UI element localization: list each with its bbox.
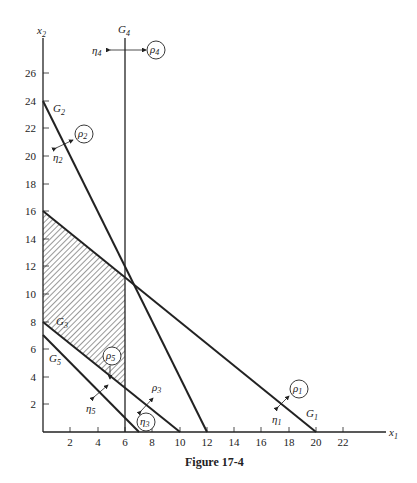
y-axis-label: x2	[36, 24, 46, 39]
svg-text:4: 4	[31, 371, 37, 383]
label-g2: G2	[53, 102, 65, 117]
svg-text:22: 22	[338, 436, 349, 448]
svg-text:12: 12	[202, 436, 213, 448]
svg-text:8: 8	[149, 436, 155, 448]
svg-text:6: 6	[122, 436, 128, 448]
eta4-label: η4	[92, 44, 101, 58]
svg-text:24: 24	[25, 95, 37, 107]
svg-text:12: 12	[25, 260, 36, 272]
svg-text:4: 4	[95, 436, 101, 448]
x-tick-labels: 2 4 6 8 10 12 14 16 18 20 22	[67, 436, 348, 448]
svg-text:2: 2	[67, 436, 73, 448]
eta1-label: η1	[272, 413, 281, 427]
figure-caption: Figure 17-4	[185, 455, 244, 469]
label-g1: G1	[306, 407, 318, 422]
svg-text:20: 20	[25, 150, 37, 162]
svg-text:6: 6	[31, 343, 37, 355]
svg-text:18: 18	[284, 436, 296, 448]
x-axis-label: x1	[388, 426, 398, 441]
deviation-arrow-g5	[94, 385, 108, 397]
eta2-label: η2	[53, 151, 62, 165]
svg-text:18: 18	[25, 178, 37, 190]
svg-text:16: 16	[256, 436, 268, 448]
label-g5: G5	[49, 352, 61, 367]
svg-text:14: 14	[25, 233, 37, 245]
y-tick-labels: 2 4 6 8 10 12 14 16 18 20 22 24 26	[25, 67, 37, 410]
svg-text:14: 14	[229, 436, 241, 448]
svg-text:10: 10	[25, 288, 37, 300]
svg-text:8: 8	[31, 316, 37, 328]
rho3-label: ρ3	[151, 381, 161, 395]
svg-text:10: 10	[175, 436, 187, 448]
svg-text:2: 2	[31, 398, 37, 410]
deviation-arrow-g2	[56, 140, 73, 148]
label-g4: G4	[118, 23, 130, 38]
svg-text:26: 26	[25, 67, 37, 79]
svg-text:20: 20	[311, 436, 323, 448]
eta5-label: η5	[86, 402, 95, 416]
goal-programming-figure: x2 x1 2 4 6 8 10 12 14 16 18 20 22 2 4 6…	[0, 0, 417, 483]
svg-text:22: 22	[25, 122, 36, 134]
svg-text:16: 16	[25, 205, 37, 217]
